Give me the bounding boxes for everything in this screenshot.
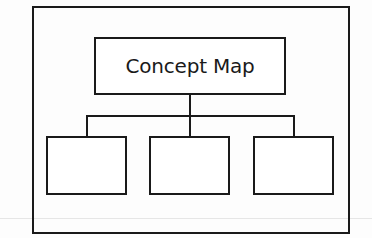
root-concept-label: Concept Map [125, 54, 254, 78]
root-concept-node: Concept Map [94, 37, 286, 95]
branch-connector-bar [86, 115, 295, 117]
child-concept-node-1 [46, 136, 127, 195]
child-concept-node-2 [149, 136, 230, 195]
right-branch-connector [293, 115, 295, 137]
child-concept-node-3 [253, 136, 334, 195]
left-branch-connector [86, 115, 88, 137]
